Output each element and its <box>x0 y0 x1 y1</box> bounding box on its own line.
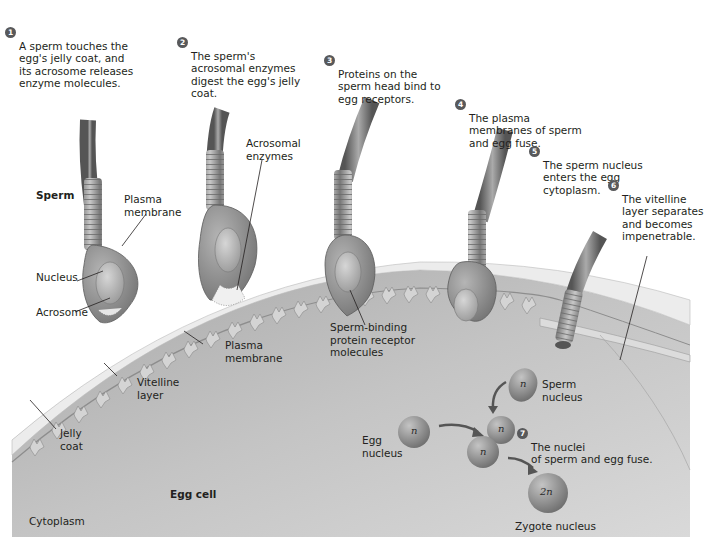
label-egg-nucleus: Egg nucleus <box>362 434 403 459</box>
step-number-badge: 6 <box>608 180 619 191</box>
step-7: 7The nuclei of sperm and egg fuse. <box>517 428 653 466</box>
label-cytoplasm: Cytoplasm <box>29 515 85 528</box>
step-4: 4The plasma membranes of sperm and egg f… <box>455 99 582 149</box>
step-number-badge: 5 <box>529 146 540 157</box>
label-acrosome: Acrosome <box>36 306 88 319</box>
label-vitelline-layer: Vitelline layer <box>137 376 179 401</box>
ploidy-fusing-nucleus-b: n <box>480 446 486 457</box>
step-2: 2The sperm's acrosomal enzymes digest th… <box>177 37 300 100</box>
label-zygote-nucleus: Zygote nucleus <box>515 520 596 533</box>
fertilization-diagram: 1A sperm touches the egg's jelly coat, a… <box>0 0 712 554</box>
step-number-badge: 7 <box>517 428 528 439</box>
step-text: The plasma membranes of sperm and egg fu… <box>469 112 582 149</box>
label-acrosomal-enzymes: Acrosomal enzymes <box>246 137 301 162</box>
label-jelly-coat: Jelly coat <box>60 427 83 452</box>
step-number-badge: 3 <box>324 55 335 66</box>
sperm-1 <box>83 120 138 323</box>
step-number-badge: 1 <box>5 27 16 38</box>
ploidy-egg-nucleus: n <box>411 425 417 436</box>
label-sperm-nucleus: Sperm nucleus <box>542 378 583 403</box>
label-sperm: Sperm <box>36 189 74 202</box>
step-1: 1A sperm touches the egg's jelly coat, a… <box>5 27 133 90</box>
step-number-badge: 2 <box>177 37 188 48</box>
label-receptor-molecules: Sperm-binding protein receptor molecules <box>330 321 415 359</box>
ploidy-fusing-nucleus-a: n <box>498 423 504 434</box>
step-text: Proteins on the sperm head bind to egg r… <box>338 68 441 105</box>
step-text: The nuclei of sperm and egg fuse. <box>531 441 653 466</box>
step-text: The sperm's acrosomal enzymes digest the… <box>191 50 300 100</box>
ploidy-zygote-nucleus: 2n <box>540 486 553 497</box>
step-text: A sperm touches the egg's jelly coat, an… <box>19 40 133 90</box>
step-3: 3Proteins on the sperm head bind to egg … <box>324 55 441 105</box>
step-number-badge: 4 <box>455 99 466 110</box>
ploidy-sperm-nucleus: n <box>520 378 526 389</box>
sperm-3 <box>325 100 375 316</box>
label-egg-cell: Egg cell <box>170 488 216 501</box>
step-6: 6The vitelline layer separates and becom… <box>608 180 704 243</box>
step-text: The vitelline layer separates and become… <box>622 193 704 243</box>
label-sperm-plasma-membrane: Plasma membrane <box>124 193 181 218</box>
sperm-4 <box>448 130 505 321</box>
label-nucleus: Nucleus <box>36 271 78 284</box>
label-egg-plasma-membrane: Plasma membrane <box>225 339 282 364</box>
